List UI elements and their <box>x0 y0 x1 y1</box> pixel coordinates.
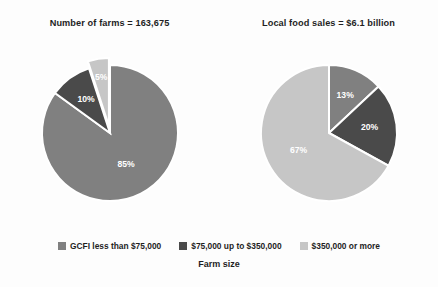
chart-panel-number-of-farms: Number of farms = 163,675 85%10%5% <box>0 0 219 232</box>
legend-item-2[interactable]: $350,000 or more <box>300 242 380 250</box>
pie-slice-label: 20% <box>360 122 378 132</box>
pie-chart-figure: Number of farms = 163,675 85%10%5% Local… <box>0 0 438 287</box>
legend-label-1: $75,000 up to $350,000 <box>191 242 281 250</box>
legend-label-2: $350,000 or more <box>312 242 380 250</box>
legend-item-0[interactable]: GCFI less than $75,000 <box>58 242 161 250</box>
legend-item-1[interactable]: $75,000 up to $350,000 <box>179 242 281 250</box>
legend-swatch-icon-0 <box>58 242 66 250</box>
pie-slice-label: 5% <box>95 72 108 82</box>
pie-slice-label: 85% <box>117 159 135 169</box>
pie-container-left: 85%10%5% <box>0 45 219 225</box>
pie-slice-label: 67% <box>289 145 307 155</box>
pie-container-right: 13%20%67% <box>219 45 438 225</box>
panel-title-right: Local food sales = $6.1 billion <box>219 18 438 28</box>
pie-slice-label: 10% <box>77 94 95 104</box>
chart-panel-local-food-sales: Local food sales = $6.1 billion 13%20%67… <box>219 0 438 232</box>
chart-legend: GCFI less than $75,000 $75,000 up to $35… <box>0 236 438 256</box>
axis-label-farm-size: Farm size <box>0 259 438 269</box>
pie-svg-left: 85%10%5% <box>22 45 198 221</box>
pie-svg-right: 13%20%67% <box>241 45 417 221</box>
legend-label-0: GCFI less than $75,000 <box>70 242 161 250</box>
legend-swatch-icon-1 <box>179 242 187 250</box>
panel-title-left: Number of farms = 163,675 <box>0 18 219 28</box>
pie-slice-label: 13% <box>336 90 354 100</box>
legend-swatch-icon-2 <box>300 242 308 250</box>
